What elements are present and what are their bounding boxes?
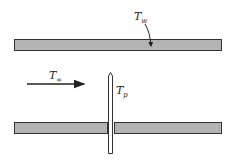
diagram-canvas: Tw T∞ Tp [0, 0, 234, 163]
probe [109, 73, 113, 154]
wall-temp-label: Tw [134, 10, 147, 25]
bottom-wall-left [15, 123, 108, 134]
free-stream-temp-label: T∞ [49, 69, 62, 84]
probe-temp-label: Tp [116, 84, 128, 99]
bottom-wall-right [115, 123, 222, 134]
top-wall [15, 40, 222, 51]
